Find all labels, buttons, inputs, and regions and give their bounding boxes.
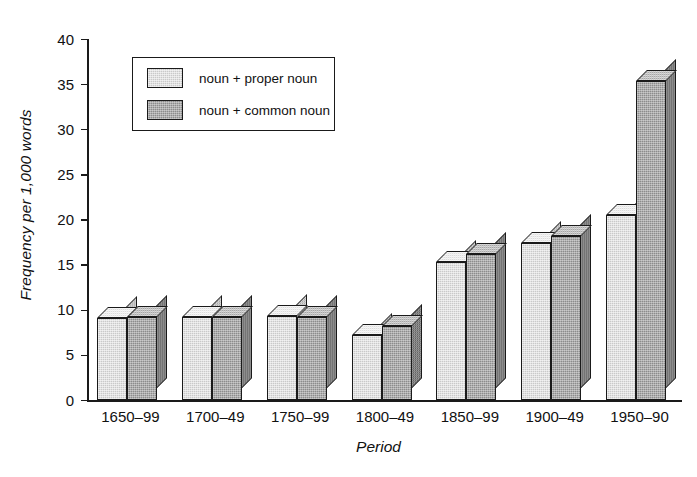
- bar-1-proper-noun-front-face: [182, 317, 212, 401]
- bar-4-common-noun-front-face: [466, 254, 496, 400]
- bar-4-proper-noun-front-face: [436, 262, 466, 400]
- legend-item-proper-noun: noun + proper noun: [147, 67, 317, 89]
- legend-item-common-noun: noun + common noun: [147, 99, 330, 121]
- y-axis-title: Frequency per 1,000 words: [17, 55, 35, 355]
- y-tick-label: 35: [44, 77, 74, 92]
- x-tick-label-2: 1750–99: [255, 408, 345, 425]
- bar-1-common-noun-front-face: [212, 317, 242, 400]
- bar-6-common-noun-side-face: [665, 59, 676, 389]
- y-tick-label: 5: [44, 347, 74, 362]
- bar-3-proper-noun-front-face: [352, 335, 382, 401]
- bar-6-common-noun-front-face: [636, 81, 666, 400]
- x-tick-label-6: 1950–90: [595, 408, 685, 425]
- y-tick-label: 0: [44, 393, 74, 408]
- y-tick-label: 40: [44, 32, 74, 47]
- bar-6-proper-noun-front-face: [606, 215, 636, 400]
- x-tick-label-3: 1800–49: [340, 408, 430, 425]
- legend-label-common-noun: noun + common noun: [199, 103, 330, 118]
- bar-2-common-noun-front-face: [297, 317, 327, 400]
- bar-5-proper-noun-front-face: [521, 243, 551, 400]
- x-tick-label-0: 1650–99: [85, 408, 175, 425]
- x-tick-label-1: 1700–49: [170, 408, 260, 425]
- x-tick-label-4: 1850–99: [425, 408, 515, 425]
- y-axis-line: [87, 39, 89, 401]
- bar-0-proper-noun-front-face: [97, 318, 127, 400]
- bar-4-common-noun-side-face: [495, 232, 506, 389]
- y-tick-label: 30: [44, 122, 74, 137]
- legend-swatch-dark: [147, 100, 183, 120]
- legend-label-proper-noun: noun + proper noun: [199, 71, 317, 86]
- bar-5-common-noun-front-face: [551, 236, 581, 400]
- y-tick-label: 10: [44, 302, 74, 317]
- legend-swatch-light: [147, 68, 183, 88]
- y-tick-label: 20: [44, 212, 74, 227]
- x-axis-title: Period: [0, 438, 697, 456]
- bar-2-proper-noun-front-face: [267, 316, 297, 401]
- x-tick-label-5: 1900–49: [510, 408, 600, 425]
- bar-chart: Frequency per 1,000 words 05101520253035…: [0, 0, 697, 477]
- bar-0-common-noun-front-face: [127, 317, 157, 400]
- bar-3-common-noun-front-face: [382, 326, 412, 400]
- bar-5-common-noun-side-face: [580, 214, 591, 389]
- y-tick-label: 15: [44, 257, 74, 272]
- y-tick-label: 25: [44, 167, 74, 182]
- legend: noun + proper noun noun + common noun: [132, 57, 335, 131]
